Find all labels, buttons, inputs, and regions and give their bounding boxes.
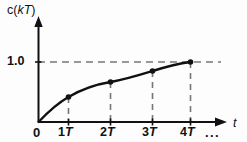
data-point-4T bbox=[188, 59, 194, 65]
x-tick-label-3T: 3T bbox=[142, 126, 157, 139]
origin-label: 0 bbox=[33, 126, 40, 139]
x-axis-ellipsis: ... bbox=[205, 126, 220, 139]
y-axis-label-suffix: ) bbox=[31, 3, 35, 17]
x-tick-number-1: 1 bbox=[58, 125, 65, 139]
x-tick-label-4T: 4T bbox=[180, 126, 195, 139]
x-axis-label: t bbox=[233, 117, 236, 130]
plot-area bbox=[0, 0, 247, 142]
x-tick-unit-2: T bbox=[107, 125, 115, 139]
x-tick-number-2: 2 bbox=[100, 125, 107, 139]
data-point-3T bbox=[150, 68, 156, 74]
y-axis-label-italic: kT bbox=[17, 3, 31, 17]
x-tick-label-2T: 2T bbox=[100, 126, 115, 139]
data-curve bbox=[39, 62, 191, 122]
data-point-2T bbox=[108, 79, 114, 85]
x-tick-label-1T: 1T bbox=[58, 126, 73, 139]
chart-figure: c(kT) 1.0 0 1T 2T 3T 4T ... t bbox=[0, 0, 247, 142]
y-axis-arrow-icon bbox=[34, 16, 42, 27]
x-tick-number-3: 3 bbox=[142, 125, 149, 139]
y-axis-label: c(kT) bbox=[7, 4, 35, 17]
x-tick-unit-1: T bbox=[65, 125, 73, 139]
y-axis-label-prefix: c( bbox=[7, 3, 17, 17]
y-tick-label-1p0: 1.0 bbox=[7, 55, 24, 68]
data-point-1T bbox=[66, 94, 72, 100]
x-tick-unit-4: T bbox=[187, 125, 195, 139]
x-tick-unit-3: T bbox=[149, 125, 157, 139]
x-tick-number-4: 4 bbox=[180, 125, 187, 139]
